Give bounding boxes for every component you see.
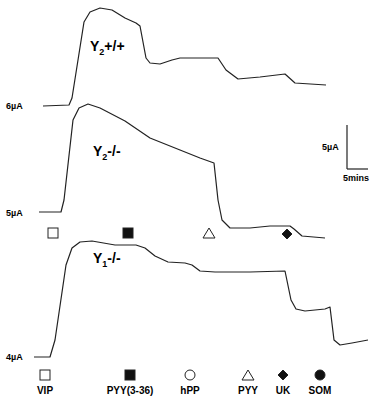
legend-label-pyy3-36: PYY(3-36) — [107, 385, 154, 396]
baseline-label-5ua: 5µA — [6, 208, 23, 218]
open-triangle-icon — [242, 370, 254, 380]
legend-label-som: SOM — [309, 385, 332, 396]
open-square-icon — [48, 228, 58, 238]
legend-label-uk: UK — [276, 385, 290, 396]
trace-y2- — [43, 8, 326, 106]
legend-label-pyy: PYY — [238, 385, 258, 396]
filled-square-icon — [125, 370, 135, 380]
trace-y1- — [34, 241, 368, 357]
filled-diamond-icon — [282, 229, 292, 239]
baseline-label-6ua: 6µA — [6, 101, 23, 111]
legend-label-vip: VIP — [37, 385, 53, 396]
legend-label-hpp: hPP — [180, 385, 199, 396]
trace-label-y2-knockout: Y2-/- — [93, 143, 121, 162]
open-triangle-icon — [203, 228, 215, 238]
trace-y2- — [39, 104, 325, 238]
filled-circle-icon — [315, 370, 325, 380]
trace-label-y2-wildtype: Y2+/+ — [90, 38, 125, 57]
scale-time-label: 5mins — [343, 173, 369, 183]
scale-bar — [347, 125, 368, 169]
chart-canvas — [0, 0, 382, 406]
filled-diamond-icon — [278, 370, 288, 380]
open-circle-icon — [185, 370, 195, 380]
filled-square-icon — [123, 228, 133, 238]
baseline-label-4ua: 4µA — [6, 352, 23, 362]
scale-current-label: 5µA — [322, 142, 339, 152]
trace-label-y1-knockout: Y1-/- — [93, 250, 121, 269]
open-square-icon — [40, 370, 50, 380]
